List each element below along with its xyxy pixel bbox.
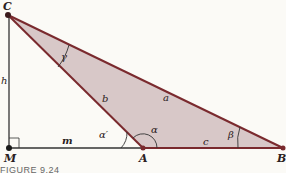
vertex-a-label: A [139,153,148,164]
side-h-label: h [1,76,7,86]
vertex-b-dot [281,146,286,151]
angle-alpha-prime-arc [121,132,127,148]
triangle-diagram [0,0,286,173]
vertex-c-label: C [3,1,12,12]
side-a-label: a [163,93,169,103]
side-c-label: c [203,137,209,147]
figure-caption: FIGURE 9.24 [0,165,60,173]
side-b-label: b [102,94,108,104]
angle-alpha-label: α [151,125,158,135]
angle-alpha-prime-label: α′ [99,130,108,140]
vertex-m-label: M [4,153,16,164]
angle-gamma-label: γ [61,52,67,62]
vertex-b-label: B [277,153,286,164]
angle-beta-label: β [228,130,234,140]
vertex-a-dot [141,146,146,151]
side-m-label: m [62,136,73,146]
vertex-m-dot [6,145,12,151]
